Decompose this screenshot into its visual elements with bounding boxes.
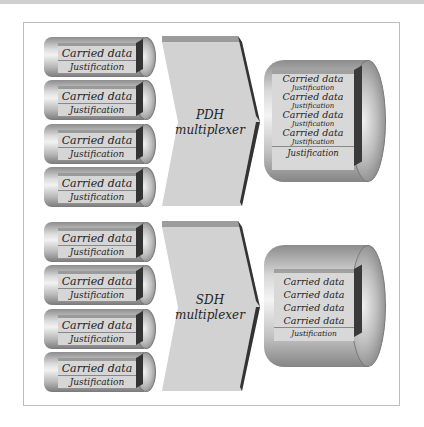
mux-subtitle: multiplexer [160,123,260,137]
sdh-input-cylinder: Carried data Justification [44,265,158,305]
justification-label: Justification [58,289,136,301]
top-bar [0,0,424,4]
justification-label: Justification [58,191,136,203]
mux-title: PDH [160,108,260,122]
sdh-input-cylinder: Carried data Justification [44,352,158,392]
carried-data-label: Carried data [58,318,136,333]
carried-data-label: Carried data [274,288,354,301]
carried-data-label: Carried data [58,231,136,246]
justification-footer: Justification [274,327,354,340]
carried-data-label: Carried data [58,133,136,148]
carried-data-label: Carried data [274,314,354,327]
justification-label: Justification [58,61,136,73]
carried-data-label: Carried data [272,92,354,102]
justification-label: Justification [272,138,354,146]
pdh-input-cylinder: Carried data Justification [44,37,158,77]
sdh-input-cylinder: Carried data Justification [44,222,158,262]
justification-label: Justification [58,333,136,345]
mux-subtitle: multiplexer [160,308,260,322]
carried-data-label: Carried data [58,361,136,376]
justification-label: Justification [58,246,136,258]
carried-data-label: Carried data [58,46,136,61]
pdh-output-cylinder: Carried data Justification Carried data … [264,60,386,182]
pdh-input-cylinder: Carried data Justification [44,80,158,120]
carried-data-label: Carried data [58,89,136,104]
carried-data-label: Carried data [58,274,136,289]
justification-label: Justification [58,148,136,160]
carried-data-label: Carried data [58,176,136,191]
sdh-multiplexer: SDH multiplexer [160,221,270,394]
carried-data-label: Carried data [274,275,354,288]
carried-data-label: Carried data [272,110,354,120]
justification-footer: Justification [272,146,354,159]
pdh-input-cylinder: Carried data Justification [44,124,158,164]
mux-title: SDH [160,293,260,307]
sdh-input-cylinder: Carried data Justification [44,309,158,349]
pdh-multiplexer: PDH multiplexer [160,36,270,209]
carried-data-label: Carried data [272,128,354,138]
sdh-output-cylinder: Carried data Carried data Carried data C… [264,245,386,367]
carried-data-label: Carried data [272,74,354,84]
carried-data-label: Carried data [274,301,354,314]
justification-label: Justification [58,104,136,116]
pdh-input-cylinder: Carried data Justification [44,167,158,207]
justification-label: Justification [58,376,136,388]
